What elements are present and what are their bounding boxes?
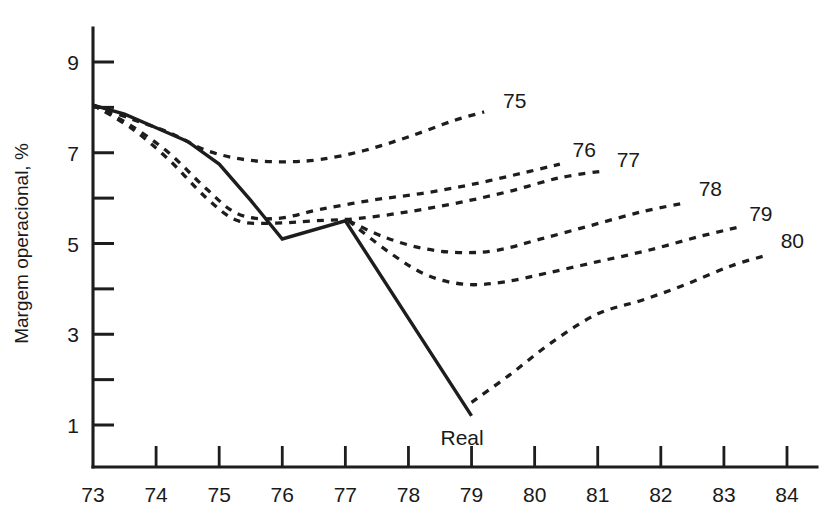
series-end-label-80: 80 xyxy=(781,229,804,252)
series-end-label-75: 75 xyxy=(503,89,526,112)
x-tick-label: 79 xyxy=(460,483,483,506)
x-tick-label: 74 xyxy=(144,483,168,506)
series-end-label-78: 78 xyxy=(699,177,722,200)
series-end-label-77: 77 xyxy=(617,148,640,171)
x-tick-label: 84 xyxy=(775,483,799,506)
x-tick-label: 78 xyxy=(397,483,420,506)
x-tick-label: 83 xyxy=(712,483,735,506)
x-tick-label: 76 xyxy=(271,483,294,506)
series-lines xyxy=(93,105,768,416)
series-line-80 xyxy=(472,255,769,402)
x-tick-label: 82 xyxy=(649,483,672,506)
series-end-label-76: 76 xyxy=(572,138,595,161)
real-series-label: Real xyxy=(440,426,483,449)
x-tick-label: 77 xyxy=(334,483,357,506)
series-line-79 xyxy=(349,221,737,285)
x-tick-label: 73 xyxy=(81,483,104,506)
chart-labels: 9753173747576777879808182838475767778798… xyxy=(11,51,804,506)
axes xyxy=(93,28,817,467)
chart-canvas: 9753173747576777879808182838475767778798… xyxy=(0,0,839,522)
y-axis-title: Margem operacional, % xyxy=(11,143,32,344)
series-line-78 xyxy=(349,203,687,253)
y-tick-label: 3 xyxy=(67,323,79,346)
y-tick-label: 9 xyxy=(67,51,79,74)
x-tick-label: 81 xyxy=(586,483,609,506)
chart-container: 9753173747576777879808182838475767778798… xyxy=(0,0,839,522)
y-tick-label: 7 xyxy=(67,142,79,165)
series-line-Real xyxy=(93,105,472,416)
y-tick-label: 1 xyxy=(67,414,79,437)
series-line-75 xyxy=(93,105,484,162)
x-tick-label: 75 xyxy=(208,483,231,506)
series-end-label-79: 79 xyxy=(749,202,772,225)
series-line-76 xyxy=(93,105,560,219)
x-tick-label: 80 xyxy=(523,483,546,506)
y-tick-label: 5 xyxy=(67,233,79,256)
